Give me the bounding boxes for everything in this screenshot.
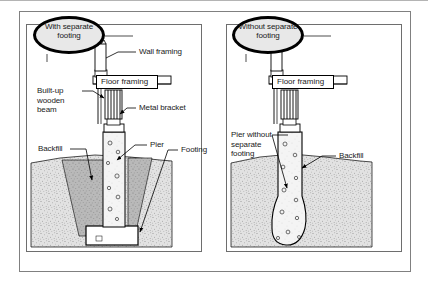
label-backfill-right: Backfill <box>339 151 364 161</box>
label-floor-framing-left: Floor framing <box>96 75 158 89</box>
label-wall-framing: Wall framing <box>139 47 182 57</box>
callout-with-separate-footing: With separate footing <box>33 16 105 54</box>
panel-with-separate-footing <box>26 24 202 252</box>
callout-without-separate-footing: Without separate footing <box>232 16 304 54</box>
label-footing: Footing <box>181 145 207 155</box>
label-pier-without-separate-footing: Pier without separate footing <box>231 130 272 159</box>
label-metal-bracket: Metal bracket <box>139 103 186 113</box>
label-floor-framing-right: Floor framing <box>272 75 334 89</box>
label-pier: Pier <box>150 140 164 150</box>
label-built-up-wooden-beam: Built-up wooden beam <box>37 86 64 115</box>
diagram-page: With separate footing Without separate f… <box>0 0 428 288</box>
label-backfill-left: Backfill <box>38 144 63 154</box>
top-rule-divider <box>0 0 428 1</box>
